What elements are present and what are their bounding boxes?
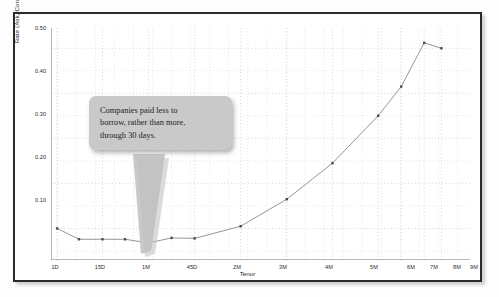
data-point-marker [124,238,126,240]
data-point-marker [170,237,172,239]
data-point-marker [147,242,149,244]
figure-frame: Rate (Ask, Conventional %) 0.50 0.40 0.3… [13,12,482,282]
y-tick-label: 0.40 [20,68,46,74]
y-tick-label: 0.50 [20,25,46,31]
y-tick-label: 0.20 [20,154,46,160]
data-point-marker [240,225,242,227]
data-point-marker [56,227,58,229]
callout-line: borrow, rather than more, [100,117,223,129]
data-point-marker [423,42,425,44]
x-axis-title: Tenor [15,270,480,277]
data-point-marker [377,115,379,117]
data-point-marker [440,47,442,49]
plot-wrapper: Rate (Ask, Conventional %) 0.50 0.40 0.3… [15,14,480,280]
callout-bubble: Companies paid less to borrow, rather th… [89,96,232,150]
data-point-marker [78,238,80,240]
callout-line: Companies paid less to [100,105,223,117]
screenshot-root: Rate (Ask, Conventional %) 0.50 0.40 0.3… [0,0,499,297]
data-point-marker [400,85,402,87]
callout-line: through 30 days. [100,130,223,142]
data-point-marker [101,238,103,240]
y-tick-label: 0.10 [20,197,46,203]
data-point-marker [331,162,333,164]
y-tick-label: 0.30 [20,111,46,117]
y-axis-tick-labels: 0.50 0.40 0.30 0.20 0.10 [15,14,46,260]
data-point-marker [286,198,288,200]
data-point-marker [193,237,195,239]
